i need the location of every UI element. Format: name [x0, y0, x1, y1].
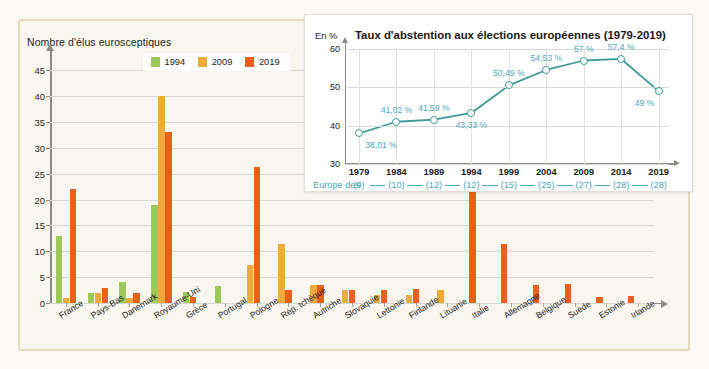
bar-2009 [406, 295, 412, 303]
inset-y-tick-label: 60 [330, 44, 340, 54]
inset-eu-member-count: (12) [426, 180, 442, 190]
inset-data-label: 54,53 % [531, 53, 563, 63]
inset-data-label: 41,59 % [418, 103, 450, 113]
bar-chart-y-tick-mark [46, 174, 50, 175]
inset-eu-member-count: (12) [463, 180, 479, 190]
bar-chart-y-tick-label: 25 [34, 168, 45, 179]
bar-chart-y-axis-arrow [46, 44, 54, 51]
bar-group [246, 60, 268, 303]
bar-2019 [70, 189, 76, 303]
bar-chart-y-tick-mark [46, 225, 50, 226]
legend-item-2009: 2009 [198, 57, 232, 67]
inset-eu-member-count: (28) [613, 180, 629, 190]
inset-chart-title: Taux d'abstention aux élections européen… [355, 29, 666, 41]
inset-data-point [617, 55, 625, 63]
inset-plot-area: 3040506038,01 %41,02 %41,59 %43,33 %50,4… [345, 49, 669, 164]
inset-data-label: 41,02 % [381, 105, 413, 115]
bar-chart-legend: 199420092019 [143, 53, 290, 71]
bar-1994 [88, 293, 94, 303]
bar-2009 [247, 265, 253, 303]
inset-eu-connector [520, 185, 535, 186]
inset-data-point [467, 109, 475, 117]
inset-eu-member-count: (15) [501, 180, 517, 190]
bar-2019 [469, 188, 475, 303]
bar-chart-y-tick-label: 5 [40, 272, 45, 283]
bar-2019 [381, 290, 387, 303]
inset-eu-connector [445, 185, 460, 186]
inset-eu-connector [482, 185, 497, 186]
bar-2019 [165, 132, 171, 303]
legend-label: 2019 [259, 57, 280, 67]
legend-swatch-icon [198, 57, 207, 67]
inset-eu-member-count: (10) [388, 180, 404, 190]
bar-chart-category-label: Italie [470, 302, 491, 320]
inset-x-tick-label: 2004 [536, 167, 557, 177]
bar-chart-y-tick-mark [46, 251, 50, 252]
legend-swatch-icon [245, 57, 254, 67]
bar-2009 [278, 244, 284, 303]
inset-data-label: 57 % [574, 44, 594, 54]
inset-data-point [542, 66, 550, 74]
inset-x-tick-label: 2019 [648, 167, 669, 177]
bar-chart-y-tick-label: 20 [34, 194, 45, 205]
inset-line-chart: En % Taux d'abstention aux élections eur… [304, 14, 693, 192]
bar-chart-y-tick-label: 10 [34, 246, 45, 257]
bar-2019 [349, 290, 355, 303]
bar-group [277, 60, 299, 303]
inset-vertical-gridline [584, 49, 585, 164]
bar-2019 [254, 167, 260, 303]
inset-data-label: 49 % [635, 98, 655, 108]
inset-vertical-gridline [509, 49, 510, 164]
inset-unit-label: En % [315, 31, 337, 41]
inset-data-point [355, 129, 363, 137]
inset-x-tick-label: 2014 [611, 167, 632, 177]
bar-group [182, 60, 204, 303]
inset-data-label: 38,01 % [365, 140, 397, 150]
bar-chart-y-tick-mark [46, 70, 50, 71]
bar-1994 [215, 286, 221, 303]
inset-vertical-gridline [621, 49, 622, 164]
inset-x-axis-arrow [674, 160, 680, 166]
inset-eu-member-count: (27) [576, 180, 592, 190]
inset-y-tick-label: 40 [330, 121, 340, 131]
inset-y-tick-label: 50 [330, 82, 340, 92]
inset-x-tick-label: 1999 [498, 167, 519, 177]
inset-data-label: 50,49 % [493, 68, 525, 78]
inset-eu-member-count: (9) [353, 180, 364, 190]
bar-chart-y-tick-label: 0 [40, 298, 45, 309]
inset-x-tick-label: 1979 [349, 167, 370, 177]
bar-chart-x-axis-arrow [661, 300, 668, 308]
inset-data-point [392, 118, 400, 126]
bar-chart-y-tick-mark [46, 122, 50, 123]
inset-data-label: 57,4 % [608, 42, 635, 52]
inset-eu-connector [557, 185, 572, 186]
inset-x-tick-label: 1989 [424, 167, 445, 177]
legend-label: 1994 [165, 57, 186, 67]
inset-x-tick-label: 1994 [461, 167, 482, 177]
inset-vertical-gridline [359, 49, 360, 164]
inset-y-tick-label: 30 [330, 159, 340, 169]
bar-1994 [151, 205, 157, 303]
inset-eu-connector [632, 185, 647, 186]
bar-group [87, 60, 109, 303]
bar-chart-y-tick-mark [46, 303, 50, 304]
inset-vertical-gridline [471, 49, 472, 164]
legend-label: 2009 [212, 57, 233, 67]
infographic-figure: Nombre d'élus eurosceptiques 05101520253… [0, 0, 709, 369]
bar-2019 [628, 296, 634, 303]
bar-2019 [413, 289, 419, 303]
inset-vertical-gridline [659, 49, 660, 164]
bar-chart-y-tick-mark [46, 277, 50, 278]
bar-1994 [56, 236, 62, 303]
bar-chart-y-tick-label: 15 [34, 220, 45, 231]
inset-eu-connector [595, 185, 610, 186]
bar-chart-y-tick-label: 45 [34, 65, 45, 76]
inset-data-point [580, 57, 588, 65]
bar-chart-y-tick-label: 30 [34, 142, 45, 153]
bar-2009 [342, 290, 348, 303]
bar-chart-y-tick-label: 40 [34, 91, 45, 102]
bar-chart-category-labels: FrancePays-BasDanemarkRoyaume-UniGrècePo… [50, 308, 662, 363]
bar-2019 [596, 297, 602, 303]
inset-data-point [430, 116, 438, 124]
inset-eu-member-count: (25) [538, 180, 554, 190]
